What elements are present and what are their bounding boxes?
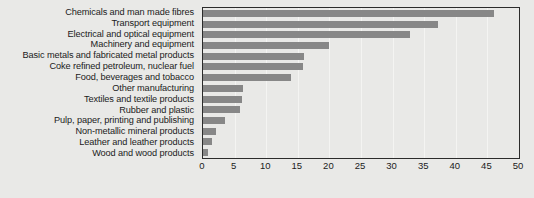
bar	[203, 85, 243, 92]
bar	[203, 53, 304, 60]
bar-row	[203, 94, 519, 105]
category-label: Food, beverages and tobacco	[0, 72, 198, 83]
bar	[203, 31, 410, 38]
bar	[203, 106, 240, 113]
bar	[203, 128, 216, 135]
bar-row	[203, 147, 519, 158]
bar	[203, 42, 329, 49]
bar-row	[203, 19, 519, 30]
x-tick-label: 10	[260, 161, 271, 171]
category-label: Other manufacturing	[0, 83, 198, 94]
x-axis-tick-labels: 05101520253035404550	[202, 161, 520, 179]
category-label: Coke refined petroleum, nuclear fuel	[0, 61, 198, 72]
bar-row	[203, 51, 519, 62]
category-label: Electrical and optical equipment	[0, 29, 198, 40]
bar-row	[203, 83, 519, 94]
x-tick-label: 50	[513, 161, 524, 171]
bar-row	[203, 62, 519, 73]
bar	[203, 74, 291, 81]
bar-row	[203, 8, 519, 19]
x-tick-label: 5	[231, 161, 236, 171]
bar-row	[203, 126, 519, 137]
bar-series	[203, 8, 519, 158]
bar	[203, 149, 208, 156]
category-label: Rubber and plastic	[0, 105, 198, 116]
bar-row	[203, 104, 519, 115]
category-label: Basic metals and fabricated metal produc…	[0, 50, 198, 61]
x-tick-label: 45	[481, 161, 492, 171]
category-label: Wood and wood products	[0, 148, 198, 159]
x-tick-label: 0	[199, 161, 204, 171]
bar-row	[203, 40, 519, 51]
category-label: Textiles and textile products	[0, 94, 198, 105]
category-label: Transport equipment	[0, 18, 198, 29]
bar	[203, 138, 212, 145]
bar-row	[203, 115, 519, 126]
bar	[203, 10, 494, 17]
bar	[203, 96, 242, 103]
bar-row	[203, 29, 519, 40]
category-label: Non-metallic mineral products	[0, 126, 198, 137]
bar	[203, 63, 303, 70]
category-label: Chemicals and man made fibres	[0, 7, 198, 18]
bar-row	[203, 72, 519, 83]
category-axis-labels: Chemicals and man made fibres Transport …	[0, 7, 198, 159]
x-tick-label: 30	[386, 161, 397, 171]
category-label: Leather and leather products	[0, 137, 198, 148]
x-tick-label: 25	[355, 161, 366, 171]
x-tick-label: 35	[418, 161, 429, 171]
category-label: Pulp, paper, printing and publishing	[0, 116, 198, 127]
bar-row	[203, 137, 519, 148]
bar	[203, 21, 438, 28]
x-tick-label: 20	[323, 161, 334, 171]
plot-area	[202, 7, 520, 159]
category-label: Machinery and equipment	[0, 40, 198, 51]
x-tick-label: 15	[292, 161, 303, 171]
x-tick-label: 40	[450, 161, 461, 171]
bar	[203, 117, 225, 124]
bar-chart: Chemicals and man made fibres Transport …	[0, 0, 534, 198]
